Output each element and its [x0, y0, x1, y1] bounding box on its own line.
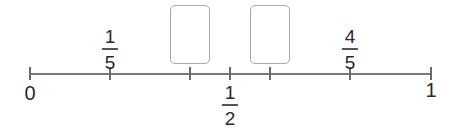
tick-answer-2 [269, 67, 271, 80]
fraction-bar [102, 48, 118, 50]
tick-answer-1 [189, 67, 191, 80]
denominator: 5 [105, 53, 116, 72]
tick-0 [29, 67, 31, 80]
denominator: 2 [225, 109, 236, 128]
numerator: 4 [345, 27, 356, 46]
label-one-half: 1 2 [222, 83, 238, 128]
denominator: 5 [345, 53, 356, 72]
numerator: 1 [105, 27, 116, 46]
label-one-fifth: 1 5 [102, 27, 118, 72]
label-zero: 0 [24, 83, 35, 103]
label-four-fifths: 4 5 [342, 27, 358, 72]
answer-box-2[interactable] [250, 5, 290, 64]
numerator: 1 [225, 83, 236, 102]
fraction-bar [342, 48, 358, 50]
fraction-bar [222, 104, 238, 106]
tick-one-half [229, 67, 231, 80]
answer-box-1[interactable] [170, 5, 210, 64]
label-one: 1 [425, 80, 436, 100]
